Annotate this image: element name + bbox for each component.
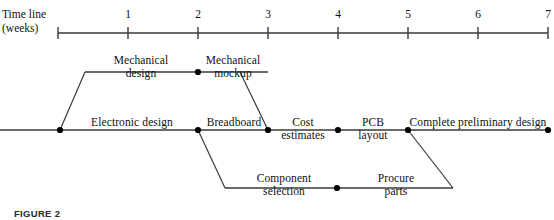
axis-tick-label-1: 1 [120,8,136,20]
node-project-start [57,127,63,133]
label-component-selection: Component selection [232,172,336,197]
label-breadboard: Breadboard [201,116,267,129]
figure-container: Time line (weeks) 1 2 3 4 5 6 7 Mechanic… [0,0,554,220]
axis-tick-label-7: 7 [540,8,554,20]
figure-caption: FIGURE 2 [14,208,60,220]
label-mechanical-design: Mechanical design [96,54,186,79]
axis-tick-label-5: 5 [400,8,416,20]
lower-branch-descender [198,130,225,188]
label-electronic-design: Electronic design [74,116,190,129]
label-mechanical-mockup: Mechanical mockup [188,54,278,79]
axis-tick-label-6: 6 [470,8,486,20]
label-pcb-layout: PCB layout [340,116,406,141]
axis-tick-label-4: 4 [330,8,346,20]
time-axis [58,27,548,39]
label-complete-preliminary-design: Complete preliminary design [408,116,548,129]
axis-tick-label-2: 2 [190,8,206,20]
timeline-axis-label: Time line (weeks) [2,8,46,35]
axis-tick-label-3: 3 [260,8,276,20]
label-procure-parts: Procure parts [344,172,448,197]
label-cost-estimates: Cost estimates [269,116,337,141]
